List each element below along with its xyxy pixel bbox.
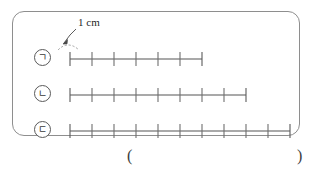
ruler-label-c-text: ㄷ (38, 125, 47, 135)
answer-open-paren: ( (127, 148, 132, 164)
measure-label: 1 cm (78, 17, 100, 28)
answer-blank: ( ) (12, 146, 300, 174)
ruler-row-a: ㄱ (13, 46, 299, 72)
ruler-row-b: ㄴ (13, 82, 299, 108)
ruler-label-b-text: ㄴ (38, 89, 47, 99)
answer-close-paren: ) (297, 148, 302, 164)
ruler-scale-c (55, 118, 305, 144)
ruler-label-c: ㄷ (34, 121, 51, 138)
ruler-scale-a (55, 46, 305, 72)
diagram-panel: ㄱ ㄴ (12, 11, 300, 136)
ruler-scale-b (55, 82, 305, 108)
ruler-label-a: ㄱ (34, 49, 51, 66)
figure-root: ㄱ ㄴ (0, 0, 318, 186)
ruler-label-b: ㄴ (34, 85, 51, 102)
ruler-row-c: ㄷ (13, 118, 299, 144)
ruler-label-a-text: ㄱ (38, 53, 47, 63)
